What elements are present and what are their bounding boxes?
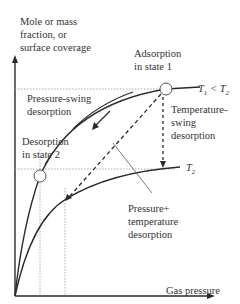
desorption-state2-label: Desorption in state 2 <box>22 135 69 161</box>
pressure-swing-label: Pressure-swing desorption <box>27 92 91 118</box>
temperature-swing-arrowhead-icon <box>160 161 166 168</box>
leader-pressure-temperature <box>113 143 152 193</box>
t2-curve-label: T2 <box>186 161 195 179</box>
state2-marker <box>34 170 46 182</box>
state1-marker <box>160 83 172 95</box>
t1-curve-label: T1 < T2 <box>198 82 229 100</box>
pressure-swing-arrow <box>95 111 110 126</box>
y-axis-arrow-icon <box>12 55 18 63</box>
x-axis-label: Gas pressure <box>166 284 220 297</box>
pressure-temperature-label: Pressure+ temperature desorption <box>128 202 178 241</box>
y-axis-label: Mole or mass fraction, or surface covera… <box>20 15 91 54</box>
temperature-swing-label: Temperature- swing desorption <box>171 103 227 142</box>
adsorption-state1-label: Adsorption in state 1 <box>134 47 181 73</box>
